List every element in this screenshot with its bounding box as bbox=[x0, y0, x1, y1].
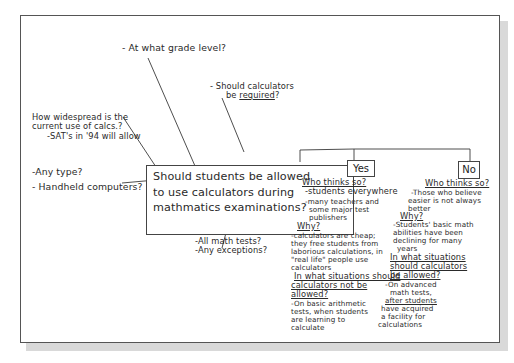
no-who-heading: Who thinks so? bbox=[425, 179, 489, 188]
no-situations-heading: be allowed? bbox=[390, 271, 440, 280]
required-question-line2: be required? bbox=[226, 91, 279, 100]
handheld-question: - Handheld computers? bbox=[32, 182, 143, 192]
yes-why-heading: Why? bbox=[297, 222, 320, 231]
type-question: -Any type? bbox=[32, 167, 83, 177]
exceptions-question: -Any exceptions? bbox=[195, 246, 267, 255]
yes-who-item: -students everywhere bbox=[305, 187, 398, 196]
widespread-question-line2: current use of calcs.? bbox=[32, 122, 123, 131]
yes-situations-line: calculate bbox=[291, 324, 324, 332]
yes-situations-heading: allowed? bbox=[291, 290, 328, 299]
sat-note: -SAT's in '94 will allow bbox=[47, 132, 141, 141]
yes-box: Yes bbox=[347, 160, 375, 177]
grade-level-question: - At what grade level? bbox=[122, 43, 226, 53]
required-emphasis: required bbox=[239, 90, 275, 100]
no-box: No bbox=[458, 161, 480, 179]
no-situations-line: calculations bbox=[378, 321, 422, 329]
